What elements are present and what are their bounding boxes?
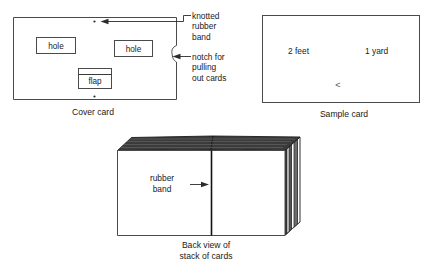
cover-card-caption: Cover card bbox=[72, 107, 114, 117]
stack-front-face bbox=[118, 151, 286, 236]
stack-caption-line-1: Back view of bbox=[182, 240, 231, 250]
stack-top-face-left bbox=[118, 136, 214, 151]
stack-caption-line-2: stack of cards bbox=[179, 251, 232, 261]
knotted-band-label-line-2: rubber bbox=[192, 21, 216, 31]
stack-of-cards-group: rubber band Back view of stack of cards bbox=[118, 136, 301, 261]
sample-card-left-text: 2 feet bbox=[288, 46, 310, 56]
sample-card-outline bbox=[263, 16, 420, 103]
sample-card-right-text: 1 yard bbox=[365, 46, 389, 56]
notch-label-line-1: notch for bbox=[192, 52, 225, 62]
stack-right-edges bbox=[285, 137, 300, 235]
band-dot-top bbox=[93, 20, 95, 22]
notch-label-line-2: pulling bbox=[192, 62, 217, 72]
flap-label: flap bbox=[88, 77, 102, 86]
sample-card-group: 2 feet 1 yard < Sample card bbox=[263, 16, 420, 120]
notch-label-line-3: out cards bbox=[192, 73, 226, 83]
band-dot-bottom bbox=[93, 95, 95, 97]
card-system-diagram: hole hole flap Cover card knotted rubber… bbox=[0, 0, 429, 271]
cover-card-group: hole hole flap Cover card bbox=[14, 18, 177, 118]
knotted-band-label-line-1: knotted bbox=[192, 11, 220, 21]
stack-band-label-line-1: rubber bbox=[150, 173, 174, 183]
notch-annotation: notch for pulling out cards bbox=[173, 52, 227, 84]
sample-card-comparison-symbol: < bbox=[335, 80, 340, 90]
diagram-root: hole hole flap Cover card knotted rubber… bbox=[0, 0, 429, 271]
hole-right-label: hole bbox=[126, 45, 142, 54]
sample-card-caption: Sample card bbox=[320, 109, 368, 119]
stack-band-label-line-2: band bbox=[153, 184, 172, 194]
stack-top-face-right bbox=[211, 136, 300, 151]
knotted-band-label-line-3: band bbox=[192, 32, 211, 42]
hole-left-label: hole bbox=[48, 42, 64, 51]
